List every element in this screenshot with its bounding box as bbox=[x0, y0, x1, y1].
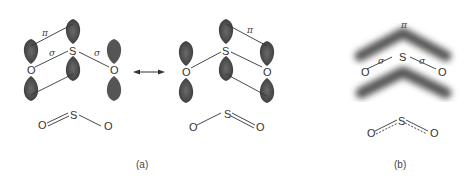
atom-o-left: O bbox=[182, 66, 191, 78]
atom-o-right: O bbox=[110, 64, 119, 76]
sigma-label-right: σ bbox=[94, 48, 101, 58]
atom-o-right: O bbox=[263, 66, 272, 78]
o-right-lobe-down bbox=[260, 78, 274, 103]
lewis1-o-right: O bbox=[104, 120, 113, 132]
resonance-arrow-icon bbox=[133, 70, 165, 75]
s-lobe-down bbox=[219, 56, 233, 81]
lewis1-o-left: O bbox=[38, 119, 47, 131]
so2-orbital-diagram: O S O π σ σ O S O O S bbox=[0, 0, 465, 182]
s-lobe-up bbox=[66, 19, 80, 44]
pi-label: π bbox=[246, 25, 254, 35]
panel-a-structure-2: O S O π bbox=[179, 19, 274, 103]
lewis-b-o-right: O bbox=[430, 127, 439, 139]
sigma-label-right: σ bbox=[419, 56, 426, 66]
atom-s: S bbox=[399, 51, 406, 63]
sigma-bond-left bbox=[191, 52, 221, 68]
double-bond-a bbox=[232, 113, 255, 125]
lewis2-o-left: O bbox=[189, 121, 198, 133]
single-bond bbox=[197, 113, 221, 125]
lewis-structure-delocalized: O S O bbox=[367, 115, 439, 139]
pi-label: π bbox=[41, 28, 49, 38]
sigma-label-left: σ bbox=[49, 48, 56, 58]
pi-overlap-line-bottom bbox=[226, 74, 267, 96]
atom-o-left: O bbox=[27, 64, 36, 76]
lewis-structure-1: O S O bbox=[38, 109, 113, 132]
orbital-lobes bbox=[179, 19, 274, 103]
delocalized-pi-cloud-bottom bbox=[361, 72, 446, 93]
caption-b: (b) bbox=[394, 159, 406, 170]
atom-o-left: O bbox=[361, 66, 370, 78]
pi-label: π bbox=[400, 20, 408, 30]
panel-a-structure-1: O S O π σ σ bbox=[24, 19, 121, 101]
double-bond-b bbox=[231, 116, 254, 128]
lewis2-o-right: O bbox=[256, 121, 265, 133]
atom-s: S bbox=[222, 45, 229, 57]
o-left-lobe-down bbox=[24, 76, 38, 101]
sigma-bond-right bbox=[231, 52, 262, 67]
pi-overlap-line-bottom bbox=[31, 74, 73, 95]
o-right-lobe-up bbox=[260, 41, 274, 66]
single-bond bbox=[79, 115, 101, 126]
lewis2-s: S bbox=[224, 108, 231, 120]
lewis1-s: S bbox=[70, 109, 77, 121]
atom-s: S bbox=[69, 45, 76, 57]
o-left-lobe-up bbox=[179, 41, 193, 66]
orbital-lobes bbox=[24, 19, 121, 101]
lewis-b-o-left: O bbox=[367, 127, 376, 139]
lewis-structure-2: O S O bbox=[189, 108, 265, 133]
panel-b-delocalized: O S O π σ σ bbox=[360, 20, 447, 93]
o-right-lobe-up bbox=[107, 39, 121, 64]
o-right-lobe-down bbox=[107, 76, 121, 101]
s-lobe-up bbox=[219, 19, 233, 44]
atom-o-right: O bbox=[438, 66, 447, 78]
o-left-lobe-down bbox=[179, 78, 193, 103]
s-lobe-down bbox=[66, 56, 80, 81]
caption-a: (a) bbox=[136, 159, 148, 170]
o-left-lobe-up bbox=[24, 39, 38, 64]
lewis-b-s: S bbox=[398, 115, 405, 127]
sigma-label-left: σ bbox=[378, 56, 385, 66]
